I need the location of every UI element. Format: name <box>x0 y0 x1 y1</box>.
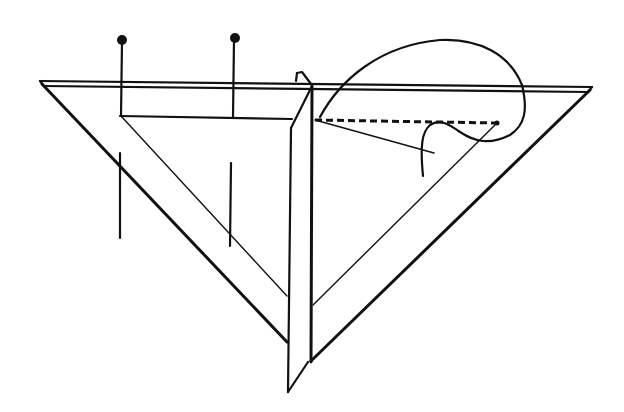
pin-images <box>120 153 231 246</box>
dashed-line <box>315 120 500 126</box>
thread <box>315 40 525 176</box>
diagram-canvas: Line drawing: two triangular set squares… <box>0 0 624 412</box>
pin-right <box>230 33 240 117</box>
left-set-square <box>42 84 292 342</box>
set-squares-drawing <box>0 0 624 412</box>
top-edge <box>40 81 592 92</box>
pin-left <box>117 35 127 116</box>
